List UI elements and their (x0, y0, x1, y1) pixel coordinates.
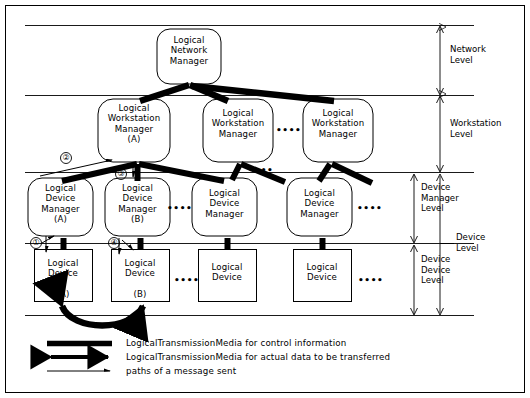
node-logical-device-manager-3 (192, 178, 257, 236)
node-logical-network-manager (157, 29, 221, 84)
ellipsis-workstation-below: •••• (248, 166, 273, 175)
ellipsis-device-row: •••• (174, 276, 199, 285)
node-logical-device-3 (199, 250, 257, 302)
step-marker-3: ③ (118, 170, 125, 178)
node-logical-workstation-manager-3 (303, 99, 373, 162)
legend-symbols (47, 344, 112, 372)
ellipsis-device-manager-right: •••• (357, 204, 382, 213)
ellipsis-workstation-row: •••• (276, 126, 301, 135)
node-logical-device-manager-a (28, 178, 93, 236)
node-logical-device-manager-b (105, 178, 170, 236)
node-outlines (28, 29, 373, 302)
step-marker-1: ① (33, 239, 40, 247)
step-marker-2: ② (63, 154, 70, 162)
node-logical-device-4 (294, 250, 352, 302)
node-logical-device-b (112, 250, 170, 302)
legend-text-actual-data: LogicalTransmissionMedia for actual data… (126, 351, 390, 364)
diagram-canvas: Logical Network Manager Logical Workstat… (0, 0, 530, 398)
node-logical-device-a (35, 250, 93, 302)
node-logical-device-manager-4 (287, 178, 352, 236)
level-label-device-manager: Device Manager Level (421, 182, 459, 214)
level-label-device-device: Device Device Level (421, 254, 450, 286)
legend-text-message-paths: paths of a message sent (126, 365, 236, 378)
ellipsis-device-right: •••• (358, 276, 383, 285)
step-marker-4: ④ (111, 239, 118, 247)
legend-text-control-information: LogicalTransmissionMedia for control inf… (126, 337, 346, 350)
node-logical-workstation-manager-2 (203, 99, 273, 162)
level-label-device: Device Level (456, 232, 485, 253)
node-logical-workstation-manager-a (98, 99, 170, 162)
level-label-workstation: Workstation Level (450, 118, 501, 139)
ellipsis-device-manager-row: •••• (167, 204, 192, 213)
level-label-network: Network Level (450, 44, 486, 65)
